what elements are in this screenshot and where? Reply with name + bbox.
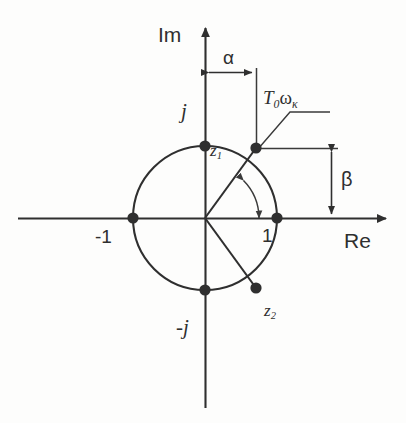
- point-label-neg-one: -1: [95, 227, 112, 246]
- point-label-z2-subscript: 2: [271, 310, 276, 321]
- point-marker-neg-one: [127, 212, 138, 223]
- annotation-label-t: T: [263, 87, 274, 108]
- point-label-j: j: [181, 101, 187, 122]
- annotation-leader-line: [258, 112, 330, 149]
- alpha-dimension: [209, 68, 257, 150]
- beta-dimension: [258, 149, 338, 215]
- annotation-label-omega: ω: [279, 87, 292, 108]
- figure-canvas: [0, 0, 406, 423]
- point-marker-z2: [250, 282, 261, 293]
- annotation-label-t0-omega: T0ωκ: [263, 88, 298, 110]
- point-label-z1: z1: [210, 142, 222, 162]
- point-label-z1-subscript: 1: [217, 150, 222, 161]
- imaginary-axis-label: Im: [158, 24, 181, 45]
- point-label-z2: z2: [264, 302, 276, 322]
- z-plane-unit-circle-figure: Im Re α β j -j -1 1 z1 z2 T0ωκ: [0, 0, 406, 423]
- alpha-dimension-label: α: [223, 48, 234, 67]
- angle-arc: [244, 181, 260, 219]
- point-marker-z1: [250, 142, 261, 153]
- radius-line-z2: [205, 218, 256, 288]
- point-label-z1-base: z: [210, 141, 217, 160]
- real-axis-label: Re: [344, 230, 371, 251]
- point-marker-j: [199, 140, 210, 151]
- point-marker-neg-j: [199, 284, 210, 295]
- point-label-neg-j: -j: [176, 317, 189, 338]
- annotation-label-sub-kappa: κ: [292, 98, 298, 111]
- beta-dimension-label: β: [341, 169, 353, 189]
- point-label-one: 1: [262, 226, 273, 245]
- point-marker-one: [271, 212, 282, 223]
- point-label-z2-base: z: [264, 301, 271, 320]
